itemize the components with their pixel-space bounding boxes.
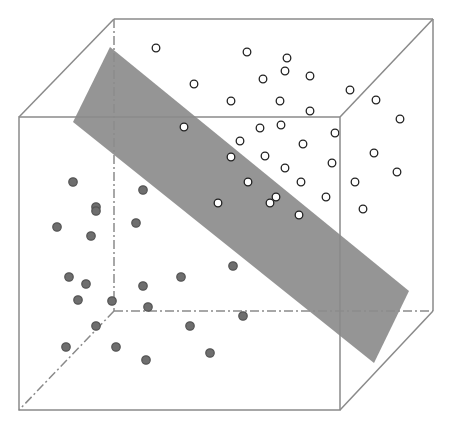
class-a-point bbox=[236, 137, 244, 145]
class-a-point bbox=[359, 205, 367, 213]
class-b-point bbox=[144, 303, 152, 311]
class-a-point bbox=[295, 211, 303, 219]
class-a-point bbox=[372, 96, 380, 104]
class-a-point bbox=[322, 193, 330, 201]
class-b-point bbox=[142, 356, 150, 364]
class-b-point bbox=[92, 322, 100, 330]
svm-hyperplane-diagram bbox=[0, 0, 451, 428]
class-a-point bbox=[256, 124, 264, 132]
class-a-point bbox=[351, 178, 359, 186]
class-a-point bbox=[370, 149, 378, 157]
class-b-point bbox=[62, 343, 70, 351]
class-b-point bbox=[82, 280, 90, 288]
class-a-point bbox=[299, 140, 307, 148]
class-b-point bbox=[74, 296, 82, 304]
class-a-point bbox=[306, 72, 314, 80]
class-a-point bbox=[214, 199, 222, 207]
class-a-point bbox=[261, 152, 269, 160]
class-b-point bbox=[206, 349, 214, 357]
class-a-point bbox=[396, 115, 404, 123]
class-a-point bbox=[152, 44, 160, 52]
class-a-point bbox=[272, 193, 280, 201]
class-b-point bbox=[186, 322, 194, 330]
class-a-point bbox=[346, 86, 354, 94]
class-a-point bbox=[277, 121, 285, 129]
class-b-point bbox=[92, 207, 100, 215]
class-b-point bbox=[69, 178, 77, 186]
class-b-point bbox=[239, 312, 247, 320]
class-a-point bbox=[281, 164, 289, 172]
class-a-point bbox=[276, 97, 284, 105]
class-b-point bbox=[132, 219, 140, 227]
class-b-point bbox=[139, 282, 147, 290]
class-a-point bbox=[227, 97, 235, 105]
class-a-point bbox=[331, 129, 339, 137]
class-b-point bbox=[177, 273, 185, 281]
class-a-point bbox=[243, 48, 251, 56]
class-b-point bbox=[53, 223, 61, 231]
class-a-point bbox=[190, 80, 198, 88]
class-a-point bbox=[393, 168, 401, 176]
class-b-point bbox=[139, 186, 147, 194]
class-b-point bbox=[112, 343, 120, 351]
class-b-point bbox=[108, 297, 116, 305]
class-a-point bbox=[244, 178, 252, 186]
depth-edge-top-right bbox=[340, 19, 433, 117]
class-a-point bbox=[306, 107, 314, 115]
diagram-canvas bbox=[0, 0, 451, 428]
class-a-point bbox=[281, 67, 289, 75]
class-a-point bbox=[259, 75, 267, 83]
class-b-point bbox=[65, 273, 73, 281]
class-a-point bbox=[283, 54, 291, 62]
class-b-point bbox=[87, 232, 95, 240]
class-a-point bbox=[328, 159, 336, 167]
class-a-point bbox=[297, 178, 305, 186]
class-a-point bbox=[180, 123, 188, 131]
class-b-point bbox=[229, 262, 237, 270]
class-a-point bbox=[227, 153, 235, 161]
class-a-point bbox=[266, 199, 274, 207]
